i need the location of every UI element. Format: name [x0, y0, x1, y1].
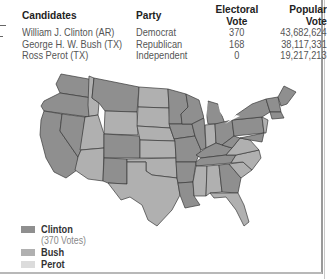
state-massachusetts — [270, 112, 284, 119]
state-wyoming — [104, 111, 138, 135]
state-colorado — [104, 134, 140, 158]
legend-swatch-bush — [21, 249, 35, 256]
legend-label-perot: Perot — [41, 258, 65, 270]
legend-item-bush: Bush — [21, 246, 92, 258]
state-kansas — [140, 140, 176, 158]
map-legend: Clinton (370 Votes) Bush Perot — [21, 223, 92, 270]
legend-item-clinton: Clinton — [21, 223, 92, 235]
state-south-dakota — [137, 107, 170, 128]
state-arkansas — [176, 162, 196, 183]
state-mississippi — [193, 166, 207, 196]
state-new-mexico — [103, 158, 127, 184]
legend-swatch-perot — [21, 261, 35, 268]
legend-swatch-clinton — [21, 226, 35, 233]
state-montana — [92, 78, 139, 112]
legend-label-clinton: Clinton — [41, 223, 73, 235]
state-nebraska — [137, 126, 175, 141]
state-maine — [278, 86, 296, 106]
legend-sublabel-clinton: (370 Votes) — [41, 235, 92, 246]
state-florida — [210, 193, 249, 226]
legend-item-perot: Perot — [21, 258, 92, 270]
legend-label-bush: Bush — [41, 246, 64, 258]
state-north-dakota — [138, 87, 169, 108]
